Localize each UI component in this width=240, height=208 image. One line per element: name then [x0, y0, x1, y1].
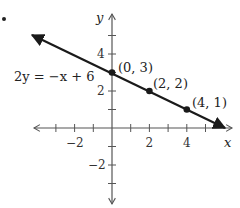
point-label-4-1: (4, 1) [192, 95, 227, 110]
bullet-dot [2, 17, 6, 21]
x-tick-label-neg2: −2 [66, 136, 84, 150]
y-tick-label-4: 4 [97, 47, 105, 61]
x-tick-label-2: 2 [146, 136, 154, 150]
point-label-0-3: (0, 3) [118, 60, 153, 75]
y-axis-label: y [95, 10, 104, 25]
y-tick-label-neg2: −2 [88, 158, 106, 172]
x-axis-label: x [224, 135, 232, 150]
equation-label: 2y = −x + 6 [14, 69, 94, 84]
point-2-2 [146, 88, 153, 95]
point-label-2-2: (2, 2) [153, 76, 188, 91]
point-0-3 [109, 69, 116, 76]
x-tick-label-4: 4 [183, 136, 191, 150]
coordinate-graph: y x −2 2 4 4 2 −2 (0, 3) (2, 2) (4, 1) 2… [0, 0, 240, 208]
point-4-1 [184, 106, 191, 113]
y-tick-label-2: 2 [97, 84, 105, 98]
